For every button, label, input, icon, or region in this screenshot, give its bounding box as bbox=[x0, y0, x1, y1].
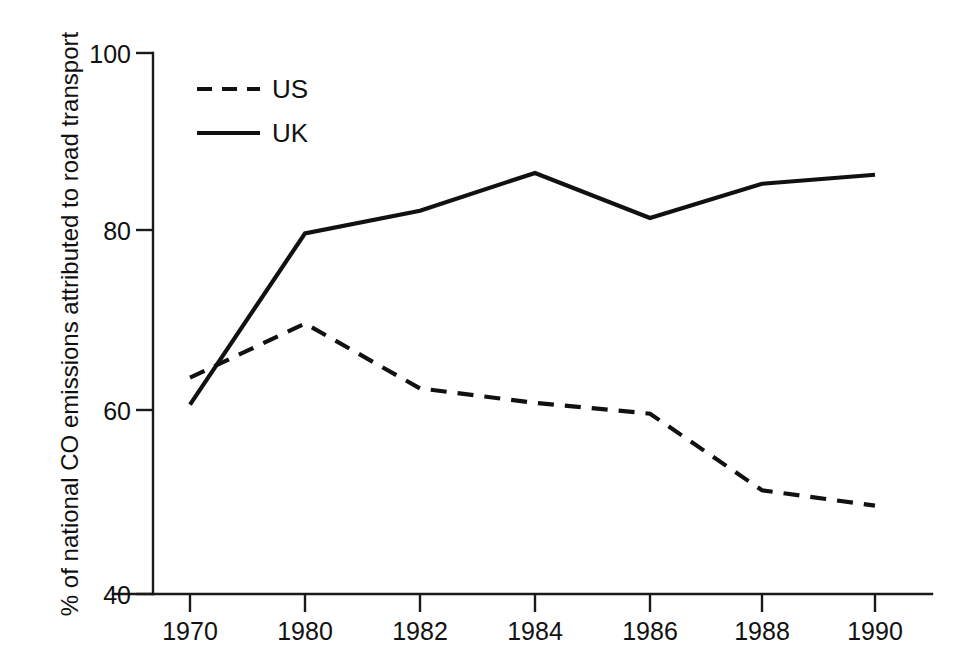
legend-label-uk: UK bbox=[272, 118, 309, 148]
chart-figure: 100 80 60 40 1970 1980 1982 1984 1986 19… bbox=[0, 0, 969, 671]
line-chart-canvas: 100 80 60 40 1970 1980 1982 1984 1986 19… bbox=[0, 0, 969, 671]
x-tick-label-1988: 1988 bbox=[734, 617, 790, 645]
series-group bbox=[190, 173, 875, 506]
x-tick-label-1990: 1990 bbox=[847, 617, 903, 645]
series-line-us bbox=[190, 324, 875, 506]
x-tick-label-1984: 1984 bbox=[507, 617, 563, 645]
y-tick-label-100: 100 bbox=[89, 40, 131, 68]
x-tick-label-1980: 1980 bbox=[277, 617, 333, 645]
y-tick-label-80: 80 bbox=[103, 217, 131, 245]
x-tick-label-1970: 1970 bbox=[162, 617, 218, 645]
y-axis-title: % of national CO emissions attributed to… bbox=[56, 32, 83, 617]
x-tick-label-1986: 1986 bbox=[622, 617, 678, 645]
axis-x bbox=[113, 594, 932, 612]
series-line-uk bbox=[190, 173, 875, 405]
legend-label-us: US bbox=[272, 74, 308, 104]
axis-y bbox=[136, 53, 153, 594]
chart-legend: US UK bbox=[197, 74, 309, 148]
x-tick-label-1982: 1982 bbox=[392, 617, 448, 645]
y-tick-label-40: 40 bbox=[103, 581, 131, 609]
x-tick-labels: 1970 1980 1982 1984 1986 1988 1990 bbox=[162, 617, 903, 645]
y-tick-labels: 100 80 60 40 bbox=[89, 40, 131, 609]
y-tick-label-60: 60 bbox=[103, 397, 131, 425]
